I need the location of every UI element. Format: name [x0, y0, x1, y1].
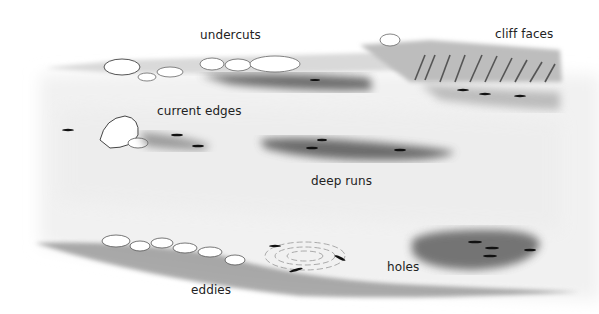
label-eddies: eddies — [191, 283, 231, 297]
label-deep-runs: deep runs — [311, 174, 372, 188]
stream-illustration — [0, 0, 599, 314]
label-holes: holes — [387, 260, 419, 274]
label-current-edges: current edges — [157, 104, 242, 118]
label-cliff-faces: cliff faces — [495, 27, 553, 41]
label-undercuts: undercuts — [200, 28, 261, 42]
